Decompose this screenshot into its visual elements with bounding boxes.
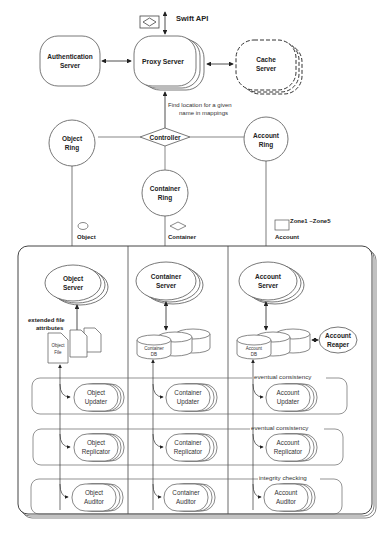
svg-text:extended file: extended file — [28, 317, 65, 323]
svg-text:Object: Object — [77, 234, 96, 240]
svg-text:Ring: Ring — [65, 144, 79, 152]
svg-text:Ring: Ring — [158, 194, 172, 202]
svg-text:Object: Object — [51, 343, 65, 348]
svg-text:Server: Server — [63, 284, 84, 291]
svg-text:Object: Object — [87, 389, 105, 397]
object-ring: Object Ring — [49, 120, 95, 166]
controller: Controller — [140, 128, 190, 146]
svg-text:Container: Container — [151, 273, 182, 280]
svg-text:Replicator: Replicator — [174, 448, 202, 456]
swift-api-icon — [140, 16, 159, 28]
object-updater: Object Updater — [74, 384, 124, 411]
svg-text:Controller: Controller — [149, 134, 181, 141]
swift-architecture-diagram: Swift API Authentication Server Proxy Se… — [0, 0, 387, 544]
container-auditor: Container Auditor — [164, 484, 215, 511]
svg-text:Auditor: Auditor — [176, 498, 196, 505]
account-auditor: Account Auditor — [264, 484, 315, 511]
svg-text:Updater: Updater — [277, 398, 299, 406]
svg-text:Ring: Ring — [259, 141, 273, 149]
account-replicator: Account Replicator — [266, 434, 317, 461]
svg-text:name in mappings: name in mappings — [179, 110, 228, 116]
svg-text:Account: Account — [325, 332, 352, 339]
svg-text:Container: Container — [144, 346, 164, 351]
svg-text:Zone1 ~Zone5: Zone1 ~Zone5 — [290, 218, 331, 224]
proxy-server: Proxy Server — [134, 36, 204, 90]
svg-text:Account: Account — [275, 489, 298, 496]
svg-text:DB: DB — [151, 352, 157, 357]
svg-text:Account: Account — [253, 132, 280, 139]
svg-text:Container: Container — [172, 489, 199, 496]
svg-text:Account: Account — [255, 273, 282, 280]
svg-text:Updater: Updater — [177, 398, 199, 406]
svg-text:Proxy Server: Proxy Server — [142, 58, 184, 66]
svg-text:Auditor: Auditor — [276, 498, 296, 505]
object-replicator: Object Replicator — [74, 434, 124, 461]
svg-text:Find location for a given: Find location for a given — [168, 102, 232, 108]
account-reaper: Account Reaper — [319, 327, 357, 353]
svg-text:DB: DB — [251, 352, 257, 357]
row-note: eventual consistency — [254, 373, 312, 380]
cache-server: Cache Server — [236, 40, 302, 94]
svg-text:Auditor: Auditor — [84, 498, 104, 505]
svg-text:Server: Server — [156, 282, 177, 289]
container-ring: Container Ring — [142, 170, 188, 216]
svg-text:Account: Account — [277, 439, 300, 446]
container-updater: Container Updater — [166, 384, 217, 411]
svg-text:Authentication: Authentication — [47, 53, 93, 60]
object-auditor: Object Auditor — [72, 484, 123, 511]
svg-text:Object: Object — [63, 275, 84, 283]
swift-api-label: Swift API — [176, 14, 208, 23]
svg-text:attributes: attributes — [36, 325, 64, 331]
svg-text:Updater: Updater — [85, 398, 107, 406]
svg-text:Object: Object — [87, 439, 105, 447]
svg-text:Container: Container — [174, 389, 201, 396]
container-replicator: Container Replicator — [166, 434, 217, 461]
svg-text:Server: Server — [258, 282, 279, 289]
row-note: eventual consistency — [251, 424, 309, 431]
svg-text:Replicator: Replicator — [274, 448, 302, 456]
authentication-server: Authentication Server — [40, 36, 100, 86]
row-note: integrity checking — [259, 474, 307, 481]
svg-text:Object: Object — [62, 135, 83, 143]
account-ring: Account Ring — [244, 117, 288, 161]
svg-text:Object: Object — [85, 489, 103, 497]
svg-text:Reaper: Reaper — [327, 341, 350, 349]
svg-text:Container: Container — [174, 439, 201, 446]
svg-text:Server: Server — [60, 62, 81, 69]
account-updater: Account Updater — [266, 384, 317, 411]
svg-text:Server: Server — [256, 65, 277, 72]
svg-text:Container: Container — [168, 234, 197, 240]
svg-text:File: File — [54, 350, 62, 355]
legend: Object Container Zone1 ~Zone5 Account — [77, 218, 331, 240]
svg-text:Cache: Cache — [256, 56, 276, 63]
svg-text:Account: Account — [275, 234, 299, 240]
svg-text:Replicator: Replicator — [82, 448, 110, 456]
svg-text:Account: Account — [277, 389, 300, 396]
svg-text:Account: Account — [246, 346, 263, 351]
svg-text:Container: Container — [150, 185, 181, 192]
